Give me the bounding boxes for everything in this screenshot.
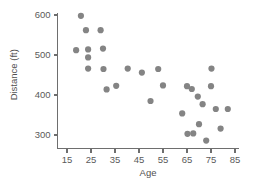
data-point [184, 131, 190, 137]
x-tick-label: 25 [86, 154, 97, 165]
y-tick-label: 600 [35, 9, 51, 20]
data-point [179, 110, 185, 116]
data-point [200, 101, 206, 107]
data-point [100, 66, 106, 72]
data-point [213, 106, 219, 112]
x-tick-label: 15 [62, 154, 73, 165]
data-point [100, 46, 106, 52]
data-point [85, 54, 91, 60]
data-point [98, 27, 104, 33]
data-point [189, 86, 195, 92]
data-point [218, 126, 224, 132]
x-tick-label: 85 [230, 154, 241, 165]
data-point [85, 46, 91, 52]
x-tick-label: 35 [110, 154, 121, 165]
data-point [125, 66, 131, 72]
data-point [139, 70, 145, 76]
plot-area: 3004005006001525354555657585AgeDistance … [0, 0, 279, 182]
data-point [208, 83, 214, 89]
y-tick-label: 500 [35, 49, 51, 60]
scatter-chart: 3004005006001525354555657585AgeDistance … [0, 0, 279, 182]
data-point [83, 27, 89, 33]
data-point [190, 130, 196, 136]
x-tick-label: 55 [158, 154, 169, 165]
data-point [155, 66, 161, 72]
x-tick-label: 45 [134, 154, 145, 165]
x-tick-label: 65 [182, 154, 193, 165]
data-point [203, 138, 209, 144]
data-point [85, 66, 91, 72]
y-tick-label: 300 [35, 129, 51, 140]
data-point [73, 47, 79, 53]
data-point [195, 94, 201, 100]
x-axis-title: Age [140, 167, 157, 178]
data-point [104, 86, 110, 92]
data-point [147, 98, 153, 104]
data-point [160, 82, 166, 88]
y-axis-title: Distance (ft) [8, 49, 19, 100]
data-point [78, 13, 84, 19]
data-point [225, 106, 231, 112]
data-point [208, 66, 214, 72]
y-tick-label: 400 [35, 89, 51, 100]
data-point [113, 83, 119, 89]
x-tick-label: 75 [206, 154, 217, 165]
data-point [196, 121, 202, 127]
